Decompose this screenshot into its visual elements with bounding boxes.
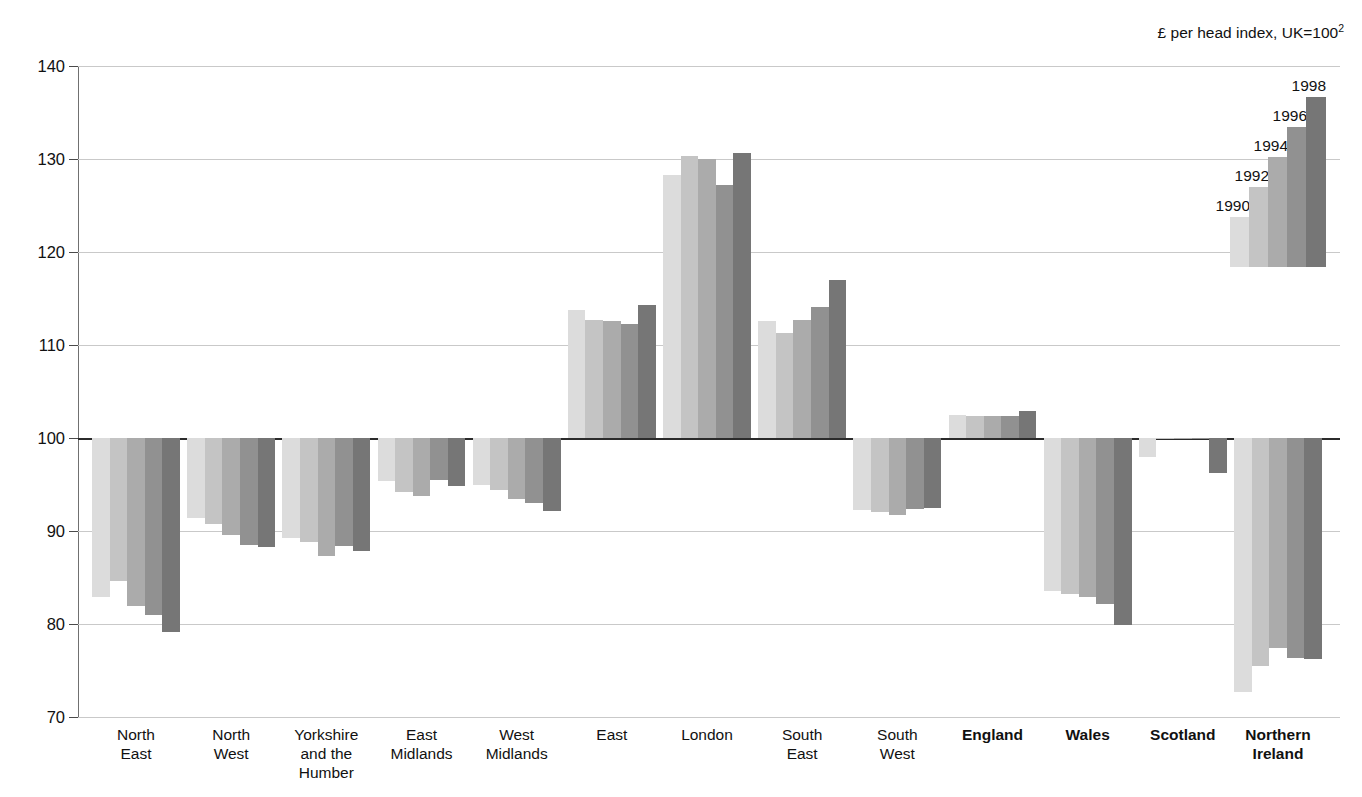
bar-group [473, 66, 561, 717]
bar[interactable] [638, 305, 656, 438]
bar[interactable] [1079, 438, 1097, 597]
legend-label-1998: 1998 [1292, 77, 1326, 95]
legend-swatch-1994[interactable] [1268, 157, 1288, 267]
legend-label-1994: 1994 [1254, 137, 1288, 155]
bar[interactable] [92, 438, 110, 597]
bar[interactable] [924, 438, 942, 508]
bar[interactable] [906, 438, 924, 509]
bar[interactable] [621, 324, 639, 438]
legend-swatch-1990[interactable] [1230, 217, 1250, 267]
legend-swatch-1996[interactable] [1287, 127, 1307, 267]
bar[interactable] [282, 438, 300, 538]
bar[interactable] [490, 438, 508, 490]
y-tick-label-120: 120 [37, 243, 65, 262]
bar[interactable] [430, 438, 448, 480]
bar[interactable] [240, 438, 258, 545]
bar-group [663, 66, 751, 717]
bar[interactable] [1269, 438, 1287, 648]
bar[interactable] [1001, 416, 1019, 438]
y-tick-130 [69, 159, 78, 160]
y-tick-120 [69, 252, 78, 253]
bar[interactable] [473, 438, 491, 485]
legend-label-1992: 1992 [1235, 167, 1269, 185]
bar[interactable] [378, 438, 396, 481]
y-tick-140 [69, 66, 78, 67]
bar-group [1044, 66, 1132, 717]
bar-group [568, 66, 656, 717]
bar[interactable] [1019, 411, 1037, 438]
y-tick-label-130: 130 [37, 150, 65, 169]
bar[interactable] [1287, 438, 1305, 658]
y-tick-label-100: 100 [37, 429, 65, 448]
unit-note: £ per head index, UK=1002 [1158, 22, 1344, 42]
bar[interactable] [205, 438, 223, 524]
bar[interactable] [716, 185, 734, 438]
bar-group [853, 66, 941, 717]
bar[interactable] [222, 438, 240, 535]
y-tick-80 [69, 624, 78, 625]
bar[interactable] [525, 438, 543, 503]
y-tick-label-140: 140 [37, 57, 65, 76]
bar[interactable] [698, 159, 716, 438]
bar[interactable] [335, 438, 353, 546]
bar[interactable] [1044, 438, 1062, 591]
bar[interactable] [162, 438, 180, 632]
bar[interactable] [966, 416, 984, 438]
bar[interactable] [829, 280, 847, 438]
legend-swatch-1998[interactable] [1306, 97, 1326, 267]
legend-swatch-1992[interactable] [1249, 187, 1269, 267]
bar[interactable] [1139, 438, 1157, 457]
bar[interactable] [1252, 438, 1270, 666]
bar[interactable] [110, 438, 128, 581]
unit-note-footnote-marker: 2 [1338, 22, 1344, 34]
bar[interactable] [1061, 438, 1079, 594]
bar[interactable] [145, 438, 163, 615]
legend-label-1996: 1996 [1273, 107, 1307, 125]
bar[interactable] [984, 416, 1002, 438]
y-tick-label-80: 80 [47, 615, 65, 634]
bar[interactable] [127, 438, 145, 606]
bar-group [378, 66, 466, 717]
bar[interactable] [793, 320, 811, 438]
bar[interactable] [811, 307, 829, 438]
bar[interactable] [395, 438, 413, 492]
bar[interactable] [1304, 438, 1322, 659]
bar[interactable] [543, 438, 561, 511]
y-tick-90 [69, 531, 78, 532]
bar-group [758, 66, 846, 717]
legend-label-1990: 1990 [1216, 197, 1250, 215]
bar[interactable] [853, 438, 871, 510]
bar[interactable] [318, 438, 336, 556]
bar[interactable] [1096, 438, 1114, 604]
legend: 19901992199419961998 [1212, 97, 1330, 267]
bar[interactable] [448, 438, 466, 486]
bar[interactable] [568, 310, 586, 438]
bar[interactable] [681, 156, 699, 438]
bar[interactable] [1234, 438, 1252, 692]
bar[interactable] [889, 438, 907, 515]
bar[interactable] [663, 175, 681, 438]
bar[interactable] [300, 438, 318, 542]
bar[interactable] [508, 438, 526, 499]
bar[interactable] [1156, 438, 1174, 439]
chart-plot-area: 708090100110120130140 [78, 66, 1340, 717]
bar[interactable] [1209, 438, 1227, 473]
bar[interactable] [1114, 438, 1132, 625]
bar[interactable] [1192, 438, 1210, 439]
y-tick-100 [69, 438, 78, 439]
bar[interactable] [585, 320, 603, 438]
bar-group [92, 66, 180, 717]
bar[interactable] [353, 438, 371, 551]
bar[interactable] [258, 438, 276, 547]
bar[interactable] [758, 321, 776, 438]
bar[interactable] [413, 438, 431, 496]
bar[interactable] [187, 438, 205, 518]
y-tick-label-90: 90 [47, 522, 65, 541]
bar[interactable] [1174, 438, 1192, 439]
bar[interactable] [949, 415, 967, 438]
bar[interactable] [603, 321, 621, 438]
bar[interactable] [733, 153, 751, 438]
bar[interactable] [776, 333, 794, 438]
bar[interactable] [871, 438, 889, 512]
y-tick-70 [69, 717, 78, 718]
